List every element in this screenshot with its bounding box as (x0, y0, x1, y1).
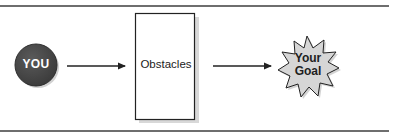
goal-label: Your Goal (285, 52, 331, 78)
goal-label-line2: Goal (285, 65, 331, 78)
obstacles-label: Obstacles (136, 58, 196, 70)
you-label: YOU (14, 57, 58, 71)
flow-diagram (0, 0, 397, 135)
